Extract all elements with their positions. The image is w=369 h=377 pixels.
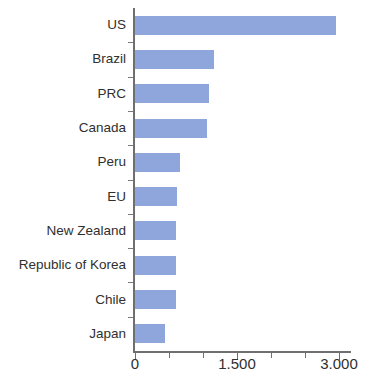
plot-area [133, 8, 369, 351]
bar-row [135, 290, 176, 309]
y-axis-tick [128, 77, 133, 78]
y-axis-label-6: New Zealand [46, 224, 126, 238]
y-axis-tick [128, 145, 133, 146]
bar-row [135, 187, 177, 206]
y-axis-label-9: Japan [89, 327, 126, 341]
x-axis-label-1: 1.500 [197, 355, 277, 372]
y-axis-label-7: Republic of Korea [19, 258, 126, 272]
bar-canada [135, 119, 207, 138]
bar-eu [135, 187, 177, 206]
y-axis-label-3: Canada [79, 121, 126, 135]
y-axis-label-8: Chile [95, 293, 126, 307]
bar-us [135, 16, 336, 35]
bar-row [135, 16, 336, 35]
y-axis-tick [128, 180, 133, 181]
y-axis-label-1: Brazil [92, 52, 126, 66]
bar-row [135, 50, 214, 69]
bar-row [135, 256, 176, 275]
bar-row [135, 153, 180, 172]
y-axis-tick [128, 42, 133, 43]
y-axis-tick [128, 248, 133, 249]
bar-row [135, 221, 176, 240]
bar-brazil [135, 50, 214, 69]
y-axis-label-5: EU [107, 190, 126, 204]
x-axis-label-0: 0 [95, 355, 175, 372]
bar-prc [135, 84, 209, 103]
y-axis-tick [128, 282, 133, 283]
y-axis-tick [128, 111, 133, 112]
bar-peru [135, 153, 180, 172]
y-axis-label-4: Peru [97, 155, 126, 169]
y-axis-tick [128, 214, 133, 215]
y-axis-label-2: PRC [97, 87, 126, 101]
bar-japan [135, 324, 165, 343]
bar-chart: US Brazil PRC Canada Peru EU New Zealand… [0, 0, 369, 377]
bar-new-zealand [135, 221, 176, 240]
x-axis-line [133, 351, 351, 353]
bar-row [135, 119, 207, 138]
y-axis-tick [128, 317, 133, 318]
bar-republic-of-korea [135, 256, 176, 275]
bar-row [135, 324, 165, 343]
bar-row [135, 84, 209, 103]
y-axis-label-0: US [107, 18, 126, 32]
x-axis-label-2: 3.000 [299, 355, 369, 372]
bar-chile [135, 290, 176, 309]
